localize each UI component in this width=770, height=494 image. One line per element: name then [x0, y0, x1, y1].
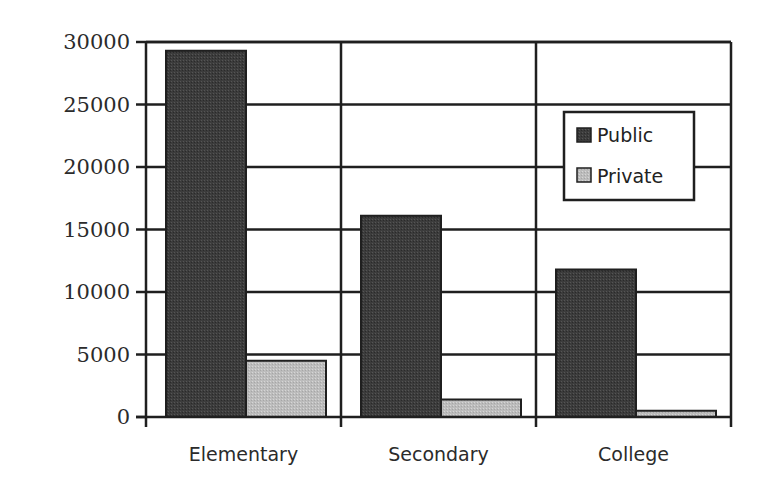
ytick-label: 0	[117, 405, 130, 429]
xtick-label-elementary: Elementary	[189, 443, 298, 465]
ytick-label: 5000	[77, 343, 130, 367]
legend: Public Private	[564, 112, 694, 200]
legend-swatch-private	[577, 168, 591, 182]
y-axis-ticks: 050001000015000200002500030000	[63, 30, 146, 429]
ytick-label: 25000	[63, 93, 130, 117]
bar-public-elementary	[166, 51, 246, 417]
legend-label-private: Private	[597, 165, 663, 187]
ytick-label: 15000	[63, 218, 130, 242]
bar-chart: 050001000015000200002500030000 Elementar…	[0, 0, 770, 494]
xtick-label-secondary: Secondary	[388, 443, 489, 465]
bar-private-elementary	[246, 361, 326, 417]
xtick-label-college: College	[598, 443, 669, 465]
ytick-label: 20000	[63, 155, 130, 179]
bar-private-secondary	[441, 400, 521, 418]
legend-label-public: Public	[597, 124, 653, 146]
ytick-label: 30000	[63, 30, 130, 54]
ytick-label: 10000	[63, 280, 130, 304]
bar-public-secondary	[361, 216, 441, 417]
bar-public-college	[556, 270, 636, 418]
x-axis-ticks: ElementarySecondaryCollege	[189, 443, 669, 465]
legend-swatch-public	[577, 128, 591, 142]
